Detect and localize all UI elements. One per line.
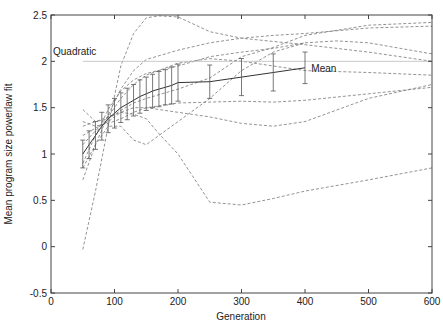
svg-text:1: 1 xyxy=(41,149,47,160)
svg-text:1.5: 1.5 xyxy=(33,102,47,113)
svg-text:0: 0 xyxy=(48,296,54,307)
series-run-9 xyxy=(83,59,432,145)
svg-text:400: 400 xyxy=(297,296,314,307)
series-run-4 xyxy=(83,22,432,121)
series-run-1 xyxy=(83,16,432,250)
svg-text:100: 100 xyxy=(106,296,123,307)
svg-text:0.5: 0.5 xyxy=(33,195,47,206)
svg-text:2: 2 xyxy=(41,56,47,67)
svg-text:500: 500 xyxy=(360,296,377,307)
chart: 0100200300400500600-0.500.511.522.5 Gene… xyxy=(0,0,443,322)
quadratic-annotation: Quadratic xyxy=(53,46,96,57)
svg-text:300: 300 xyxy=(233,296,250,307)
svg-text:-0.5: -0.5 xyxy=(30,288,48,299)
series-run-7 xyxy=(83,112,432,205)
svg-text:600: 600 xyxy=(424,296,441,307)
series-run-5 xyxy=(83,87,432,126)
mean-annotation: Mean xyxy=(311,63,336,74)
svg-text:200: 200 xyxy=(170,296,187,307)
svg-text:0: 0 xyxy=(41,241,47,252)
svg-text:2.5: 2.5 xyxy=(33,10,47,21)
series-run-2 xyxy=(83,26,432,180)
axes xyxy=(51,15,432,293)
series-run-6 xyxy=(83,85,432,136)
y-axis-label: Mean program size powerlaw fit xyxy=(3,83,14,224)
x-axis-label: Generation xyxy=(216,311,265,322)
dashed-run-series xyxy=(83,16,432,250)
